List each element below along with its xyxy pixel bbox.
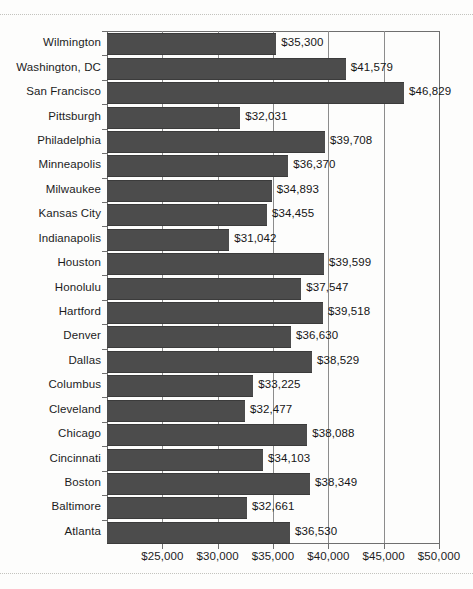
category-label: Columbus	[48, 378, 101, 390]
y-axis-tick	[102, 153, 107, 154]
x-axis-tick	[328, 543, 329, 549]
x-axis-tick-label: $40,000	[307, 550, 349, 562]
y-axis-tick	[102, 251, 107, 252]
bar-row: $36,530	[107, 522, 439, 542]
y-axis-tick	[102, 495, 107, 496]
bar-value-label: $36,530	[295, 525, 337, 537]
bar-row: $34,455	[107, 204, 439, 224]
bar-row: $38,529	[107, 351, 439, 371]
bar-value-label: $37,547	[306, 281, 348, 293]
x-axis-tick-label: $30,000	[197, 550, 239, 562]
bar-row: $41,579	[107, 58, 439, 78]
bar	[107, 302, 323, 324]
bar	[107, 253, 324, 275]
bar	[107, 58, 346, 80]
y-axis-tick	[102, 349, 107, 350]
category-label: Cleveland	[49, 403, 101, 415]
bar-row: $36,370	[107, 155, 439, 175]
x-axis-tick-label: $50,000	[418, 550, 460, 562]
bar	[107, 351, 312, 373]
category-label: Pittsburgh	[48, 110, 101, 122]
bar	[107, 326, 291, 348]
bar	[107, 449, 263, 471]
category-label: Houston	[57, 256, 101, 268]
bar-value-label: $34,103	[268, 452, 310, 464]
y-axis-tick	[102, 129, 107, 130]
x-axis-tick	[384, 543, 385, 549]
y-axis-tick	[102, 471, 107, 472]
y-axis-tick	[102, 446, 107, 447]
bar-value-label: $46,829	[409, 85, 451, 97]
bar-value-label: $31,042	[234, 232, 276, 244]
bar-row: $37,547	[107, 278, 439, 298]
category-label: Cincinnati	[50, 452, 102, 464]
y-axis-tick	[102, 520, 107, 521]
category-label: Boston	[65, 476, 101, 488]
bar-row: $34,893	[107, 180, 439, 200]
bar	[107, 424, 307, 446]
x-axis-tick-label: $35,000	[252, 550, 294, 562]
bar-value-label: $38,349	[315, 476, 357, 488]
x-axis-tick	[218, 543, 219, 549]
bar	[107, 155, 288, 177]
bar	[107, 204, 267, 226]
bar-value-label: $35,300	[281, 36, 323, 48]
page-edge-rule-top	[0, 14, 473, 15]
bar-value-label: $38,529	[317, 354, 359, 366]
bar-value-label: $32,477	[250, 403, 292, 415]
y-axis-tick	[102, 31, 107, 32]
bar	[107, 82, 404, 104]
category-label: Denver	[63, 329, 101, 341]
y-axis-tick	[102, 324, 107, 325]
bar-value-label: $39,599	[329, 256, 371, 268]
bar-value-label: $33,225	[258, 378, 300, 390]
category-label: Dallas	[68, 354, 101, 366]
y-axis-tick	[102, 397, 107, 398]
bar-value-label: $38,088	[312, 427, 354, 439]
bar-row: $39,518	[107, 302, 439, 322]
y-axis-tick	[102, 178, 107, 179]
category-label: Chicago	[58, 427, 101, 439]
bar-row: $39,599	[107, 253, 439, 273]
category-label: San Francisco	[26, 85, 101, 97]
y-axis-tick	[102, 300, 107, 301]
bar-row: $35,300	[107, 33, 439, 53]
category-label: Milwaukee	[46, 183, 101, 195]
bar-value-label: $39,708	[330, 134, 372, 146]
category-label: Philadelphia	[37, 134, 101, 146]
y-axis-tick	[102, 80, 107, 81]
bar	[107, 522, 290, 544]
x-axis-tick-label: $25,000	[141, 550, 183, 562]
bar-value-label: $32,661	[252, 500, 294, 512]
bar-chart-figure: $35,300$41,579$46,829$32,031$39,708$36,3…	[0, 0, 473, 589]
bar	[107, 33, 276, 55]
category-label: Minneapolis	[39, 158, 101, 170]
category-label: Hartford	[59, 305, 101, 317]
page-edge-rule-bottom	[0, 573, 473, 574]
y-axis-tick	[102, 275, 107, 276]
bar-value-label: $34,455	[272, 207, 314, 219]
bar-value-label: $36,630	[296, 329, 338, 341]
bar-value-label: $36,370	[293, 158, 335, 170]
bar-row: $31,042	[107, 229, 439, 249]
bar-row: $32,661	[107, 497, 439, 517]
bar	[107, 375, 253, 397]
y-axis-tick	[102, 422, 107, 423]
bar-row: $36,630	[107, 326, 439, 346]
bar-row: $39,708	[107, 131, 439, 151]
category-label: Honolulu	[55, 281, 101, 293]
plot-frame-right	[439, 31, 440, 544]
bar	[107, 180, 272, 202]
bar-row: $32,031	[107, 107, 439, 127]
x-axis-tick	[162, 543, 163, 549]
bar-row: $38,349	[107, 473, 439, 493]
bar	[107, 107, 240, 129]
bar-row: $33,225	[107, 375, 439, 395]
bar-row: $46,829	[107, 82, 439, 102]
bar-value-label: $34,893	[277, 183, 319, 195]
y-axis-tick	[102, 55, 107, 56]
bar	[107, 278, 301, 300]
y-axis-tick	[102, 373, 107, 374]
bar-value-label: $32,031	[245, 110, 287, 122]
category-label: Washington, DC	[16, 61, 101, 73]
